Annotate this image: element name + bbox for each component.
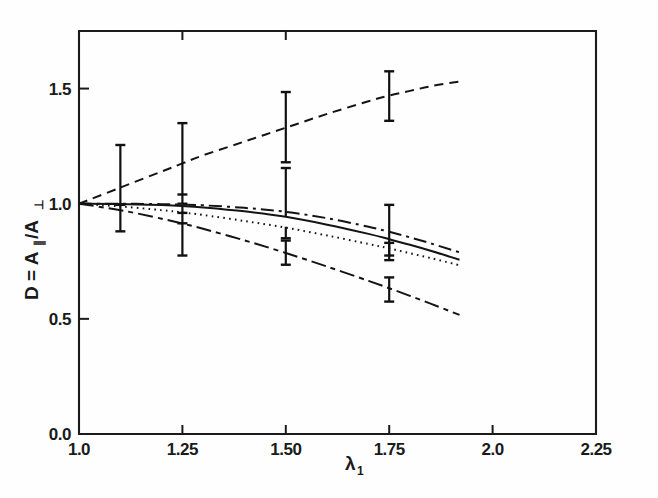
y-tick-label: 0.0 (49, 425, 71, 444)
curve-dash-dot-lower (79, 204, 460, 315)
data-curves (79, 82, 460, 315)
y-axis-title-perp: ⊥ (32, 200, 46, 210)
y-axis-title-divider: /A (21, 220, 42, 239)
x-tick-label: 1.25 (167, 440, 198, 459)
y-axis-title-parallel: ∥ (32, 240, 46, 246)
y-tick-label: 1.5 (49, 80, 71, 99)
y-axis-tick-labels: 0.00.51.01.5 (49, 80, 71, 444)
x-axis-ticks (182, 425, 492, 434)
error-bar (281, 227, 291, 239)
error-bar (281, 241, 291, 265)
y-tick-label: 0.5 (49, 310, 71, 329)
x-axis-tick-labels: 1.01.251.501.752.02.25 (68, 440, 612, 459)
error-bar (384, 71, 394, 121)
error-bar (281, 92, 291, 162)
y-axis-title: D = A ∥ /A ⊥ (21, 200, 46, 300)
curve-dotted (79, 204, 460, 265)
curve-dash-dot-upper (79, 204, 460, 253)
error-bar (115, 145, 125, 231)
x-axis-title-subscript: 1 (357, 464, 364, 478)
x-tick-label: 2.0 (482, 440, 504, 459)
curve-dashed-upper (79, 82, 460, 204)
chart-canvas: 1.01.251.501.752.02.25 0.00.51.01.5 λ 1 … (0, 0, 658, 498)
error-bar (384, 243, 394, 256)
x-tick-label: 1.75 (374, 440, 405, 459)
x-tick-label: 1.0 (68, 440, 90, 459)
y-axis-title-text: D = A (21, 251, 42, 300)
top-axis-ticks (182, 31, 285, 40)
axis-frame (79, 31, 596, 434)
x-axis-title-text: λ (345, 453, 356, 474)
x-tick-label: 1.50 (270, 440, 301, 459)
error-bar (384, 277, 394, 301)
curve-solid (79, 204, 460, 260)
x-tick-label: 2.25 (580, 440, 611, 459)
error-bar (281, 168, 291, 216)
error-bar (177, 123, 187, 204)
figure-panel: 1.01.251.501.752.02.25 0.00.51.01.5 λ 1 … (0, 0, 658, 498)
x-axis-title: λ 1 (345, 453, 364, 478)
y-tick-label: 1.0 (49, 195, 71, 214)
